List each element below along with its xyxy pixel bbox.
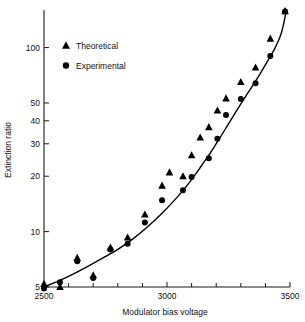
data-point-experimental	[267, 53, 273, 59]
y-axis-ticks	[44, 48, 49, 287]
x-tick-label: 3500	[281, 291, 300, 301]
data-point-theoretical	[196, 133, 204, 140]
axes-lines	[44, 10, 290, 287]
x-tick-label: 3000	[158, 291, 177, 301]
data-point-experimental	[159, 197, 165, 203]
data-point-experimental	[180, 187, 186, 193]
data-point-experimental	[90, 275, 96, 281]
data-point-experimental	[41, 286, 47, 292]
data-point-experimental	[107, 246, 113, 252]
y-tick-label: 20	[31, 171, 41, 181]
data-point-theoretical	[141, 210, 149, 217]
extinction-ratio-chart: 250030003500 51020304050100 Theoretical …	[0, 0, 305, 322]
data-point-experimental	[125, 241, 131, 247]
y-axis-tick-labels: 51020304050100	[26, 43, 40, 292]
data-point-theoretical	[166, 168, 174, 175]
fitted-curve	[44, 11, 286, 287]
y-tick-label: 50	[31, 98, 41, 108]
legend-triangle-icon	[62, 41, 70, 48]
data-point-theoretical	[179, 172, 187, 179]
y-tick-label: 40	[31, 116, 41, 126]
data-point-theoretical	[158, 182, 166, 189]
series-experimental-markers	[41, 9, 288, 292]
data-point-theoretical	[267, 35, 275, 42]
data-point-experimental	[189, 174, 195, 180]
y-tick-label: 10	[31, 227, 41, 237]
x-axis-tick-labels: 250030003500	[35, 291, 300, 301]
y-axis-title: Extinction ratio	[3, 122, 13, 178]
data-point-experimental	[206, 155, 212, 161]
y-tick-label: 30	[31, 139, 41, 149]
legend-circle-icon	[63, 62, 69, 68]
data-point-theoretical	[222, 94, 230, 101]
data-point-theoretical	[124, 233, 132, 240]
data-point-experimental	[253, 80, 259, 86]
data-point-experimental	[57, 279, 63, 285]
data-point-experimental	[223, 112, 229, 118]
x-axis-title: Modulator bias voltage	[122, 307, 208, 317]
data-point-experimental	[238, 96, 244, 102]
legend-label-theoretical: Theoretical	[76, 41, 118, 51]
data-point-experimental	[74, 258, 80, 264]
data-point-theoretical	[214, 107, 222, 114]
y-tick-label: 5	[35, 282, 40, 292]
x-axis-ticks	[44, 282, 290, 287]
data-point-experimental	[214, 136, 220, 142]
data-point-experimental	[142, 220, 148, 226]
data-point-theoretical	[252, 63, 260, 70]
data-point-theoretical	[188, 151, 196, 158]
x-tick-label: 2500	[35, 291, 54, 301]
data-point-experimental	[282, 9, 288, 15]
chart-figure: 250030003500 51020304050100 Theoretical …	[0, 0, 305, 322]
y-tick-label: 100	[26, 43, 40, 53]
chart-legend: Theoretical Experimental	[62, 41, 126, 71]
data-point-theoretical	[237, 78, 245, 85]
data-point-theoretical	[205, 123, 213, 130]
legend-label-experimental: Experimental	[76, 61, 126, 71]
